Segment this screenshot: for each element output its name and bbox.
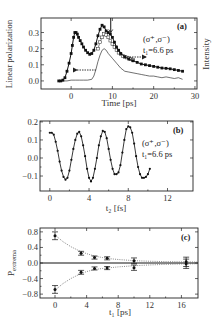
polarization-point [76, 33, 79, 36]
oscillation-point [119, 164, 121, 166]
y-tick-label: −0.1 [23, 171, 38, 181]
x-tick-label: 30 [191, 91, 200, 101]
polarization-point [71, 44, 74, 47]
oscillation-point [106, 137, 108, 139]
y-tick-label: 0.2 [27, 117, 38, 127]
oscillation-point [96, 157, 98, 159]
polarization-point [84, 49, 87, 52]
oscillation-point [108, 148, 110, 150]
x-tick-label: 0 [48, 193, 52, 203]
panel-b-label: (b) [173, 125, 184, 135]
extrema-point [54, 234, 57, 237]
x-tick-label: 12 [163, 193, 172, 203]
x-tick-label: 4 [84, 300, 89, 310]
polarization-point [64, 76, 67, 79]
oscillation-point [49, 132, 51, 134]
oscillation-point [59, 160, 61, 162]
x-tick-label: 20 [149, 91, 158, 101]
y-tick-label: 0.0 [27, 153, 38, 163]
oscillation-point [72, 148, 74, 150]
polarization-point [94, 42, 97, 45]
panel-a-annotation-2: t₁=6.6 ps [143, 45, 173, 55]
oscillation-point [68, 170, 70, 172]
open-square-point [107, 36, 110, 39]
oscillation-point [70, 159, 72, 161]
polarization-point [99, 28, 102, 31]
oscillation-line [50, 126, 150, 181]
oscillation-point [110, 159, 112, 161]
polarization-point [115, 46, 118, 49]
panel-c-ylabel: Pextrema [6, 250, 17, 276]
panel-c-xlabel: t₁ [ps] [109, 307, 131, 317]
extrema-point [80, 271, 83, 274]
polarization-point [80, 42, 83, 45]
oscillation-point [98, 144, 100, 146]
oscillation-point [94, 168, 96, 170]
extrema-point [80, 252, 83, 255]
y-tick-label: 0.3 [28, 28, 39, 38]
polarization-point [148, 64, 151, 67]
polarization-point [173, 68, 176, 71]
y-tick-label: 0.2 [28, 44, 39, 54]
oscillation-point [111, 168, 113, 170]
polarization-point [123, 55, 126, 58]
polarization-point [140, 63, 143, 66]
panel-b-annotation-2: t₁=6.6 ps [142, 149, 172, 159]
y-tick-label: −0.4 [23, 274, 39, 284]
polarization-point [177, 69, 180, 72]
oscillation-point [133, 142, 135, 144]
polarization-point [132, 59, 135, 62]
oscillation-point [60, 170, 62, 172]
oscillation-point [125, 128, 127, 130]
polarization-point [136, 61, 139, 64]
panel-a-annotation-1: (σ⁺,σ⁻) [143, 34, 170, 44]
polarization-point [66, 70, 69, 73]
open-square-point [109, 39, 112, 42]
oscillation-point [82, 144, 84, 146]
y-tick-label: 0.0 [27, 258, 38, 268]
oscillation-point [117, 171, 119, 173]
oscillation-point [129, 126, 131, 128]
polarization-point [165, 67, 168, 70]
polarization-point [169, 67, 172, 70]
oscillation-point [84, 155, 86, 157]
extrema-point [93, 256, 96, 259]
fit-curve [55, 235, 197, 262]
oscillation-point [76, 133, 78, 135]
polarization-point [77, 36, 80, 39]
polarization-point [111, 36, 114, 39]
polarization-point [128, 58, 131, 61]
oscillation-point [145, 176, 147, 178]
extrema-point [54, 288, 57, 291]
x-tick-label: 16 [177, 300, 186, 310]
panel-b-xlabel: t₂ [fs] [106, 203, 126, 213]
extrema-point [133, 266, 136, 269]
oscillation-point [86, 168, 88, 170]
polarization-point [119, 52, 122, 55]
oscillation-point [51, 132, 53, 134]
polarization-point [113, 41, 116, 44]
oscillation-point [55, 141, 57, 143]
y-tick-label: 0.4 [27, 242, 38, 252]
polarization-point [79, 39, 82, 42]
polarization-point [103, 25, 106, 28]
panel-c-label: (c) [181, 232, 191, 242]
polarization-point [152, 65, 155, 68]
polarization-point [92, 49, 95, 52]
fit-curve [55, 264, 197, 290]
oscillation-point [104, 131, 106, 133]
oscillation-point [100, 135, 102, 137]
polarization-point [117, 49, 120, 52]
polarization-point [109, 33, 112, 36]
y-tick-label: −0.8 [23, 289, 38, 299]
oscillation-point [147, 173, 149, 175]
polarization-point [144, 63, 147, 66]
panel-c: 0481216−0.8−0.40.00.40.8 (c) t₁ [ps] Pex… [6, 227, 198, 317]
polarization-point [181, 70, 184, 73]
polarization-point [68, 62, 71, 65]
figure: 01020300.00.10.20.3 (a) (σ⁺,σ⁻) t₁=6.6 p… [0, 0, 215, 329]
polarization-point [70, 52, 73, 55]
x-tick-label: 12 [146, 300, 155, 310]
extrema-point [106, 267, 109, 270]
polarization-point [161, 67, 164, 70]
